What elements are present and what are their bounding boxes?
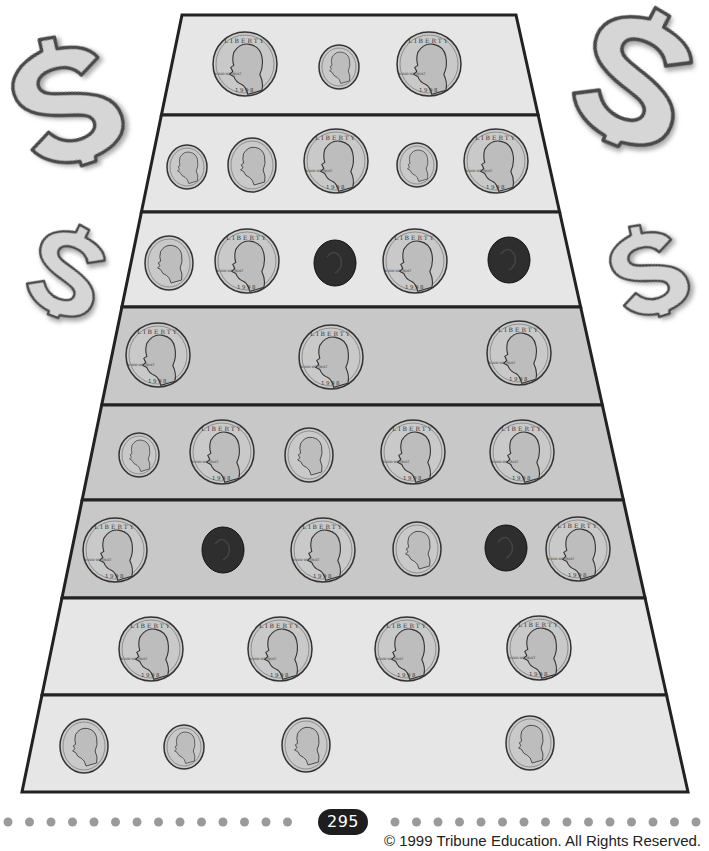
svg-text:LIBERTY: LIBERTY: [94, 523, 136, 530]
nickel-coin-icon[interactable]: [506, 716, 554, 770]
quarter-coin-icon[interactable]: LIBERTY1998IN GOD WE TRUST: [248, 617, 312, 681]
svg-text:IN GOD WE TRUST: IN GOD WE TRUST: [508, 656, 536, 660]
svg-text:1998: 1998: [141, 672, 161, 678]
nickel-coin-icon[interactable]: [393, 522, 441, 576]
svg-text:IN GOD WE TRUST: IN GOD WE TRUST: [216, 269, 244, 273]
quarter-coin-icon[interactable]: LIBERTY1998IN GOD WE TRUST: [126, 323, 190, 387]
svg-text:LIBERTY: LIBERTY: [137, 328, 179, 335]
svg-text:1998: 1998: [235, 87, 255, 93]
svg-text:IN GOD WE TRUST: IN GOD WE TRUST: [292, 558, 320, 562]
quarter-coin-icon[interactable]: LIBERTY1998IN GOD WE TRUST: [487, 321, 551, 385]
svg-text:IN GOD WE TRUST: IN GOD WE TRUST: [384, 269, 412, 273]
nickel-coin-icon[interactable]: [228, 138, 276, 192]
quarter-coin-icon[interactable]: LIBERTY1998IN GOD WE TRUST: [299, 325, 363, 389]
svg-text:1998: 1998: [405, 284, 425, 290]
svg-text:IN GOD WE TRUST: IN GOD WE TRUST: [465, 169, 493, 173]
svg-text:1998: 1998: [237, 284, 257, 290]
svg-text:LIBERTY: LIBERTY: [475, 134, 517, 141]
svg-text:LIBERTY: LIBERTY: [302, 523, 344, 530]
svg-text:LIBERTY: LIBERTY: [224, 37, 266, 44]
dime-coin-icon[interactable]: [164, 725, 204, 769]
quarter-coin-icon[interactable]: LIBERTY1998IN GOD WE TRUST: [215, 229, 279, 293]
svg-text:1998: 1998: [321, 380, 341, 386]
svg-text:1998: 1998: [212, 475, 232, 481]
svg-text:LIBERTY: LIBERTY: [518, 621, 560, 628]
quarter-coin-icon[interactable]: LIBERTY1998IN GOD WE TRUST: [546, 517, 610, 581]
quarter-coin-icon[interactable]: LIBERTY1998IN GOD WE TRUST: [381, 420, 445, 484]
svg-text:IN GOD WE TRUST: IN GOD WE TRUST: [191, 460, 219, 464]
dime-coin-icon[interactable]: [119, 433, 159, 477]
svg-text:1998: 1998: [509, 376, 529, 382]
svg-text:LIBERTY: LIBERTY: [557, 522, 599, 529]
coin-pyramid-illustration: LIBERTY1998IN GOD WE TRUSTLIBERTY1998IN …: [0, 0, 709, 851]
svg-text:IN GOD WE TRUST: IN GOD WE TRUST: [305, 169, 333, 173]
dollar-sign-top-left-icon: [0, 23, 132, 179]
svg-text:LIBERTY: LIBERTY: [498, 326, 540, 333]
svg-text:IN GOD WE TRUST: IN GOD WE TRUST: [249, 657, 277, 661]
svg-text:IN GOD WE TRUST: IN GOD WE TRUST: [84, 558, 112, 562]
svg-text:LIBERTY: LIBERTY: [386, 622, 428, 629]
svg-text:1998: 1998: [568, 572, 588, 578]
quarter-coin-icon[interactable]: LIBERTY1998IN GOD WE TRUST: [507, 616, 571, 680]
svg-text:IN GOD WE TRUST: IN GOD WE TRUST: [127, 363, 155, 367]
quarter-coin-icon[interactable]: LIBERTY1998IN GOD WE TRUST: [490, 420, 554, 484]
pyramid-row-8[interactable]: [22, 695, 688, 792]
svg-text:1998: 1998: [419, 87, 439, 93]
quarter-coin-icon[interactable]: LIBERTY1998IN GOD WE TRUST: [190, 420, 254, 484]
quarter-coin-icon[interactable]: LIBERTY1998IN GOD WE TRUST: [291, 518, 355, 582]
svg-text:IN GOD WE TRUST: IN GOD WE TRUST: [547, 557, 575, 561]
svg-text:LIBERTY: LIBERTY: [392, 425, 434, 432]
svg-text:IN GOD WE TRUST: IN GOD WE TRUST: [214, 72, 242, 76]
penny-coin-icon[interactable]: [485, 525, 527, 571]
svg-text:LIBERTY: LIBERTY: [310, 330, 352, 337]
quarter-coin-icon[interactable]: LIBERTY1998IN GOD WE TRUST: [383, 229, 447, 293]
quarter-coin-icon[interactable]: LIBERTY1998IN GOD WE TRUST: [375, 617, 439, 681]
svg-text:1998: 1998: [529, 671, 549, 677]
nickel-coin-icon[interactable]: [60, 719, 108, 773]
svg-text:LIBERTY: LIBERTY: [315, 134, 357, 141]
nickel-coin-icon[interactable]: [285, 428, 333, 482]
quarter-coin-icon[interactable]: LIBERTY1998IN GOD WE TRUST: [304, 129, 368, 193]
penny-coin-icon[interactable]: [314, 240, 356, 286]
svg-text:1998: 1998: [486, 184, 506, 190]
quarter-coin-icon[interactable]: LIBERTY1998IN GOD WE TRUST: [397, 32, 461, 96]
svg-text:LIBERTY: LIBERTY: [226, 234, 268, 241]
svg-text:LIBERTY: LIBERTY: [501, 425, 543, 432]
svg-text:LIBERTY: LIBERTY: [394, 234, 436, 241]
svg-text:IN GOD WE TRUST: IN GOD WE TRUST: [382, 460, 410, 464]
quarter-coin-icon[interactable]: LIBERTY1998IN GOD WE TRUST: [464, 129, 528, 193]
dime-coin-icon[interactable]: [397, 143, 437, 187]
dollar-sign-mid-right-icon: [601, 215, 695, 326]
svg-text:IN GOD WE TRUST: IN GOD WE TRUST: [120, 657, 148, 661]
svg-text:1998: 1998: [512, 475, 532, 481]
svg-text:LIBERTY: LIBERTY: [130, 622, 172, 629]
svg-text:IN GOD WE TRUST: IN GOD WE TRUST: [398, 72, 426, 76]
svg-text:LIBERTY: LIBERTY: [408, 37, 450, 44]
penny-coin-icon[interactable]: [488, 237, 530, 283]
svg-text:1998: 1998: [326, 184, 346, 190]
svg-text:IN GOD WE TRUST: IN GOD WE TRUST: [488, 361, 516, 365]
quarter-coin-icon[interactable]: LIBERTY1998IN GOD WE TRUST: [213, 32, 277, 96]
dollar-sign-top-right-icon: [561, 0, 709, 162]
svg-text:1998: 1998: [105, 573, 125, 579]
worksheet-page: LIBERTY1998IN GOD WE TRUSTLIBERTY1998IN …: [0, 0, 709, 851]
quarter-coin-icon[interactable]: LIBERTY1998IN GOD WE TRUST: [119, 617, 183, 681]
svg-text:LIBERTY: LIBERTY: [201, 425, 243, 432]
svg-text:LIBERTY: LIBERTY: [259, 622, 301, 629]
svg-text:IN GOD WE TRUST: IN GOD WE TRUST: [300, 365, 328, 369]
svg-text:1998: 1998: [403, 475, 423, 481]
dime-coin-icon[interactable]: [167, 145, 207, 189]
dime-coin-icon[interactable]: [319, 45, 359, 89]
dollar-sign-mid-left-icon: [20, 215, 117, 328]
svg-text:IN GOD WE TRUST: IN GOD WE TRUST: [491, 460, 519, 464]
nickel-coin-icon[interactable]: [145, 236, 193, 290]
penny-coin-icon[interactable]: [202, 527, 244, 573]
svg-text:1998: 1998: [270, 672, 290, 678]
svg-text:1998: 1998: [148, 378, 168, 384]
page-number-badge: 295: [318, 809, 368, 835]
copyright-notice: © 1999 Tribune Education. All Rights Res…: [384, 832, 701, 849]
quarter-coin-icon[interactable]: LIBERTY1998IN GOD WE TRUST: [83, 518, 147, 582]
nickel-coin-icon[interactable]: [282, 718, 330, 772]
svg-text:1998: 1998: [313, 573, 333, 579]
svg-text:1998: 1998: [397, 672, 417, 678]
